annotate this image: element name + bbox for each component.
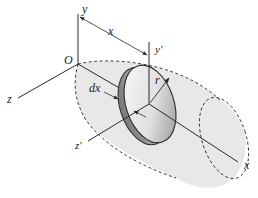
y-axis-label: y: [82, 3, 87, 15]
z-axis: [18, 64, 78, 98]
y-prime-label: y': [155, 44, 162, 55]
x-dimension-arrow: [80, 17, 147, 55]
diagram-canvas: [0, 0, 258, 198]
x-dimension-label: x: [108, 25, 113, 37]
x-axis-label: x: [244, 159, 249, 171]
origin-label: O: [64, 54, 73, 66]
radius-label: r: [155, 74, 160, 86]
z-prime-label: z': [75, 140, 82, 151]
dx-label: dx: [89, 82, 100, 94]
z-axis-label: z: [7, 93, 12, 105]
